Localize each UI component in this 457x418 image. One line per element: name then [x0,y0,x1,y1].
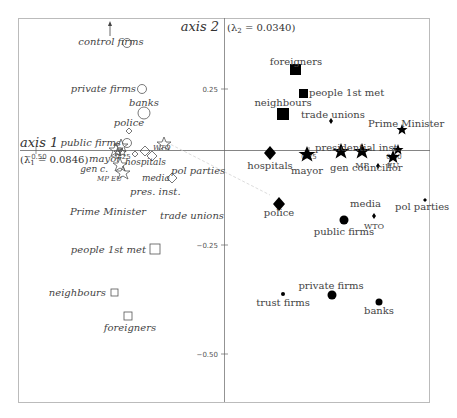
label-mayor-left: mayor [89,153,122,164]
marker-diamond-filled [372,213,376,219]
axis-2-title: axis 2 [181,19,219,34]
correspondence-analysis-plot: 0.25 −0.25 −0.50 0.25 0.50 −0.25 −0.50 a… [0,0,457,418]
label-police-left: police [114,117,144,128]
label-people-1st-met-right: people 1st met [309,87,384,98]
marker-square-filled [277,108,289,120]
label-trade-unions-left: trade unions [160,210,224,221]
label-pres-inst-left: pres. inst. [130,186,181,197]
label-banks-left: banks [129,97,159,108]
label-prime-minister-left: Prime Minister [69,206,147,217]
tick-y-minus-0.25: −0.25 [197,242,218,250]
marker-circle-filled [281,292,285,296]
right-panel-labels: foreigners people 1st met neighbours tra… [247,56,449,316]
marker-circle-filled [340,216,349,225]
label-hospitals-left: hospitals [125,157,166,167]
label-pol-parties-right: pol parties [395,201,449,212]
label-private-firms-right: private firms [298,280,363,291]
label-neighbours-right: neighbours [254,97,311,108]
axis-1-title: axis 1 [20,135,58,150]
label-prime-minister-right: Prime Minister [368,118,444,129]
label-private-firms-left: private firms [71,83,136,94]
marker-circle-filled [328,291,337,300]
label-banks-right: banks [364,305,394,316]
label-gen-c-left: gen c. [80,164,108,174]
label-trust-firms-right: trust firms [256,297,310,308]
left-panel [108,21,177,320]
label-presidential-inst-right: presidential inst. [315,142,401,153]
tick-y-0.25: 0.25 [202,86,218,94]
marker-circle-open [123,139,132,148]
marker-square-open [124,312,132,320]
label-mp-left: MP [96,175,109,183]
label-public-firms-left: public firms [61,137,121,148]
tick-y-minus-0.50: −0.50 [197,351,218,359]
label-hospitals-right: hospitals [247,160,293,171]
label-people-1st-met-left: people 1st met [71,244,147,255]
label-police-right: police [264,207,294,218]
arrow-head-icon [108,21,112,26]
label-foreigners-right: foreigners [270,56,322,67]
label-mp-right: MP [355,161,369,170]
label-eu-right: EU [387,161,400,170]
label-media-right: media [350,198,381,209]
marker-square-open [111,289,118,296]
label-control-firms: control firms [78,36,143,47]
label-media-left: media [142,173,170,183]
label-wto-left: WTO [153,144,171,152]
marker-square-open [150,244,160,254]
y-ticks: 0.25 −0.25 −0.50 [197,86,228,359]
label-mayor-right: mayor [291,165,323,176]
marker-diamond-filled [264,146,276,160]
marker-diamond-open [126,128,132,134]
label-trade-unions-right: trade unions [301,109,365,120]
label-wto-right: WTO [364,222,385,231]
label-eu-left: EU [110,175,123,183]
label-pol-parties-left: pol parties [171,165,225,176]
left-panel-labels: control firms private firms banks police… [49,36,225,333]
label-neighbours-left: neighbours [49,287,106,298]
label-foreigners-left: foreigners [103,322,156,333]
axis-2-lambda: (λ2 = 0.0340) [227,22,295,35]
marker-circle-open [138,85,147,94]
